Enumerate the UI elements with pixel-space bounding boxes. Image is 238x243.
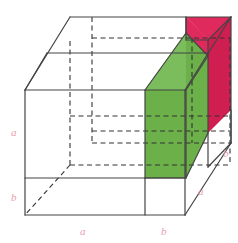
cube-diagram-svg: [0, 0, 238, 243]
label-right-diagonal-a: a: [198, 186, 204, 197]
label-right-vertical-b: b: [223, 148, 229, 159]
cube-decomposition-figure: a b a b a b: [0, 0, 238, 243]
label-left-upper-a: a: [11, 127, 17, 138]
edge-top-depth-split-left: [25, 53, 47, 90]
label-bottom-left-a: a: [80, 226, 86, 237]
label-bottom-right-b: b: [161, 226, 167, 237]
label-left-lower-b: b: [11, 192, 17, 203]
hidden-edge-depth-diagonal-left: [25, 165, 70, 215]
